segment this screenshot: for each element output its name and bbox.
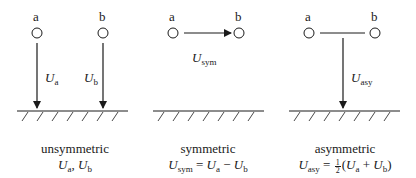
node-a-circle <box>304 28 314 38</box>
node-a-label: a <box>305 10 311 23</box>
panel-unsymmetric-graphics <box>17 28 128 121</box>
node-b-label: b <box>99 10 106 23</box>
caption-symmetric: symmetric <box>143 141 273 156</box>
formula-unsymmetric: Ua, Ub <box>10 157 140 177</box>
ground-hatch <box>22 112 118 121</box>
fraction-one-half: 12 <box>335 159 341 174</box>
caption-unsymmetric: unsymmetric <box>10 141 140 156</box>
node-b-circle <box>370 28 380 38</box>
ground-hatch <box>158 112 254 121</box>
node-a-circle <box>32 28 42 38</box>
formula-asymmetric: Uasy = 12(Ua + Ub) <box>280 157 410 177</box>
node-a-label: a <box>33 10 39 23</box>
arrow-ua-label: Ua <box>45 71 58 89</box>
node-a-label: a <box>169 10 175 23</box>
formula-symmetric: Usym = Ua − Ub <box>143 157 273 177</box>
node-b-circle <box>98 28 108 38</box>
panel-asymmetric-graphics <box>289 28 400 121</box>
node-b-circle <box>234 28 244 38</box>
node-b-label: b <box>371 10 378 23</box>
node-b-label: b <box>235 10 242 23</box>
ground-hatch <box>294 112 390 121</box>
caption-asymmetric: asymmetric <box>280 141 410 156</box>
node-a-circle <box>168 28 178 38</box>
panel-symmetric-graphics <box>153 28 264 121</box>
arrow-uasy-label: Uasy <box>351 71 372 89</box>
arrow-ub-label: Ub <box>84 71 98 89</box>
arrow-usym-label: Usym <box>192 51 216 69</box>
